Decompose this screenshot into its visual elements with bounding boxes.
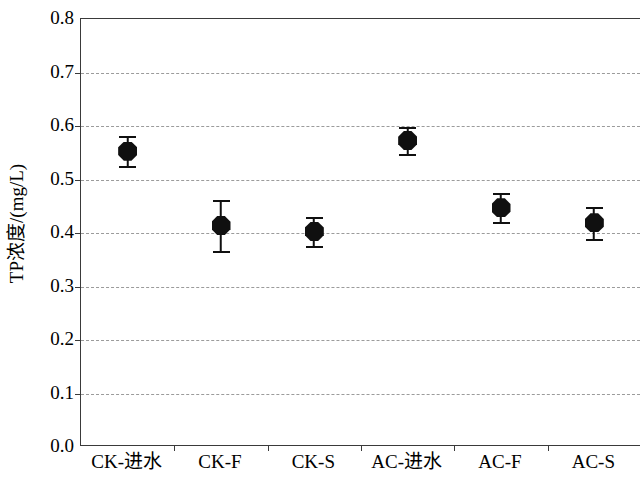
y-axis-title-text: TP浓度/(mg/L)	[2, 163, 29, 282]
y-axis-tick-label: 0.8	[30, 8, 74, 27]
y-axis-tick-label: 0.4	[30, 222, 74, 241]
x-axis-tick-mark	[361, 445, 362, 451]
data-point-marker	[492, 198, 511, 217]
error-bar-cap-upper	[119, 136, 136, 138]
gridline	[81, 180, 640, 181]
y-axis-tick-label: 0.2	[30, 329, 74, 348]
x-axis-tick-label: CK-F	[198, 452, 241, 471]
y-axis-tick-mark	[75, 287, 81, 288]
error-bar-cap-lower	[493, 222, 510, 224]
error-bar-cap-upper	[306, 217, 323, 219]
error-bar-cap-lower	[586, 239, 603, 241]
error-bar-cap-upper	[493, 193, 510, 195]
data-point-marker	[398, 131, 417, 150]
y-axis-tick-label: 0.5	[30, 169, 74, 188]
x-axis-tick-label: AC-F	[478, 452, 521, 471]
error-bar-cap-lower	[306, 246, 323, 248]
error-bar-cap-upper	[399, 127, 416, 129]
data-point-marker	[118, 142, 137, 161]
y-axis-tick-mark	[75, 180, 81, 181]
plot-inner	[81, 19, 640, 445]
data-point-marker	[585, 213, 604, 232]
x-axis-tick-mark	[268, 445, 269, 451]
y-axis-tick-mark	[75, 73, 81, 74]
error-bar-cap-lower	[213, 251, 230, 253]
gridline	[81, 126, 640, 127]
data-point-marker	[212, 216, 231, 235]
error-bar-cap-lower	[119, 166, 136, 168]
x-axis-tick-mark	[454, 445, 455, 451]
gridline	[81, 73, 640, 74]
gridline	[81, 394, 640, 395]
gridline	[81, 287, 640, 288]
data-point-marker	[305, 222, 324, 241]
error-bar-cap-upper	[586, 207, 603, 209]
chart-container: TP浓度/(mg/L) 0.00.10.20.30.40.50.60.70.8 …	[0, 0, 640, 481]
y-axis-title: TP浓度/(mg/L)	[0, 0, 30, 446]
x-axis-tick-labels: CK-进水CK-FCK-SAC-进水AC-FAC-S	[80, 452, 640, 481]
y-axis-tick-label: 0.6	[30, 115, 74, 134]
y-axis-tick-labels: 0.00.10.20.30.40.50.60.70.8	[30, 0, 74, 481]
y-axis-tick-label: 0.0	[30, 436, 74, 455]
x-axis-tick-label: CK-进水	[91, 452, 162, 471]
y-axis-tick-label: 0.1	[30, 383, 74, 402]
x-axis-tick-label: AC-进水	[371, 452, 442, 471]
x-axis-tick-mark	[174, 445, 175, 451]
plot-area	[80, 18, 640, 446]
x-axis-tick-label: CK-S	[292, 452, 335, 471]
gridline	[81, 340, 640, 341]
x-axis-tick-mark	[548, 445, 549, 451]
y-axis-tick-mark	[75, 126, 81, 127]
y-axis-tick-mark	[75, 394, 81, 395]
y-axis-tick-mark	[75, 233, 81, 234]
x-axis-tick-label: AC-S	[572, 452, 615, 471]
y-axis-tick-mark	[75, 340, 81, 341]
error-bar-cap-lower	[399, 154, 416, 156]
error-bar-cap-upper	[213, 200, 230, 202]
gridline	[81, 233, 640, 234]
y-axis-tick-label: 0.3	[30, 276, 74, 295]
y-axis-tick-label: 0.7	[30, 62, 74, 81]
